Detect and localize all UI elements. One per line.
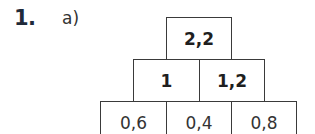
- pyramid-cell-middle-left: 1: [133, 59, 200, 102]
- exercise-number: 1.: [14, 6, 36, 30]
- pyramid-cell-bottom-middle: 0,4: [166, 101, 232, 134]
- exercise-part-label: a): [62, 8, 79, 28]
- pyramid-cell-top: 2,2: [166, 17, 232, 60]
- pyramid-cell-bottom-left: 0,6: [100, 101, 167, 134]
- pyramid-cell-bottom-right: 0,8: [231, 101, 297, 134]
- pyramid-cell-middle-right: 1,2: [199, 59, 265, 102]
